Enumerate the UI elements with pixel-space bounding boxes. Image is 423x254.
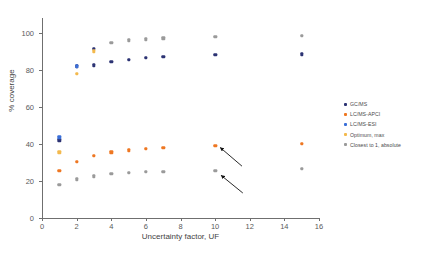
data-point — [127, 171, 130, 174]
data-point — [110, 41, 113, 44]
x-tick-label: 12 — [246, 222, 254, 231]
x-tick — [284, 218, 285, 221]
data-point — [127, 39, 130, 42]
data-point — [58, 169, 61, 172]
data-point — [161, 170, 164, 173]
data-point — [144, 38, 147, 41]
legend-swatch-icon — [344, 133, 347, 136]
y-tick-label: 40 — [26, 139, 34, 148]
data-point — [92, 175, 95, 178]
data-point — [161, 146, 164, 149]
x-tick — [146, 218, 147, 221]
y-tick: 60 — [39, 107, 42, 108]
data-point — [144, 147, 147, 150]
data-point — [75, 64, 78, 67]
data-point — [127, 58, 130, 61]
data-point — [161, 55, 164, 58]
data-point — [213, 53, 216, 56]
y-tick-label: 0 — [30, 214, 34, 223]
legend-swatch-icon — [344, 113, 347, 116]
legend-swatch-icon — [344, 123, 347, 126]
y-axis-line — [42, 18, 43, 218]
x-tick-label: 0 — [40, 222, 44, 231]
x-tick — [181, 218, 182, 221]
legend-item-lcms-esi[interactable]: LC/MS-ESI — [344, 119, 422, 129]
data-point — [110, 172, 113, 175]
data-point — [300, 34, 303, 37]
x-tick — [215, 218, 216, 221]
legend-item-closest-to-1-absolute[interactable]: Closest to 1, absolute — [344, 140, 422, 150]
data-point — [213, 169, 216, 172]
y-tick-label: 80 — [26, 65, 34, 74]
x-tick — [319, 218, 320, 221]
data-point — [58, 139, 61, 142]
legend-label: GC/MS — [350, 101, 367, 107]
data-point — [75, 177, 78, 180]
data-point — [161, 37, 164, 40]
data-point — [58, 183, 61, 186]
legend: GC/MS LC/MS-APCI LC/MS-ESI Optimum, max … — [344, 99, 422, 150]
data-point — [58, 151, 61, 154]
legend-label: Closest to 1, absolute — [350, 142, 401, 148]
y-tick-label: 60 — [26, 102, 34, 111]
data-point — [110, 60, 113, 63]
x-tick — [111, 218, 112, 221]
x-tick — [42, 218, 43, 221]
data-point — [75, 160, 78, 163]
data-point — [92, 64, 95, 67]
legend-item-lcms-apci[interactable]: LC/MS-APCI — [344, 109, 422, 119]
x-axis-title: Uncertainty factor, UF — [42, 232, 319, 241]
y-tick-label: 100 — [21, 28, 34, 37]
data-point — [213, 144, 216, 147]
data-point — [92, 154, 95, 157]
data-point — [300, 142, 303, 145]
data-point — [213, 35, 216, 38]
data-point — [75, 72, 78, 75]
data-point — [300, 167, 303, 170]
legend-swatch-icon — [344, 103, 347, 106]
data-point — [127, 149, 130, 152]
y-tick-label: 20 — [26, 176, 34, 185]
data-point — [144, 170, 147, 173]
x-tick-label: 16 — [315, 222, 323, 231]
legend-label: LC/MS-ESI — [350, 121, 376, 127]
legend-label: Optimum, max — [350, 132, 384, 138]
x-tick — [250, 218, 251, 221]
legend-swatch-icon — [344, 143, 347, 146]
x-tick-label: 6 — [144, 222, 148, 231]
legend-item-gcms[interactable]: GC/MS — [344, 99, 422, 109]
data-point — [92, 50, 95, 53]
x-tick-label: 4 — [109, 222, 113, 231]
legend-item-optimum-max[interactable]: Optimum, max — [344, 130, 422, 140]
data-point — [110, 151, 113, 154]
plot-area: 020406080100 0246810121416 — [42, 18, 319, 218]
y-tick: 80 — [39, 70, 42, 71]
legend-label: LC/MS-APCI — [350, 111, 380, 117]
chart-figure: % coverage 020406080100 0246810121416 Un… — [0, 0, 423, 254]
x-tick-label: 2 — [75, 222, 79, 231]
y-tick: 20 — [39, 181, 42, 182]
data-point — [144, 56, 147, 59]
data-point — [300, 52, 303, 55]
y-tick: 100 — [39, 33, 42, 34]
y-tick: 40 — [39, 144, 42, 145]
x-tick-label: 14 — [280, 222, 288, 231]
y-axis-title: % coverage — [7, 56, 16, 126]
x-tick — [77, 218, 78, 221]
x-tick-label: 8 — [178, 222, 182, 231]
x-tick-label: 10 — [211, 222, 219, 231]
